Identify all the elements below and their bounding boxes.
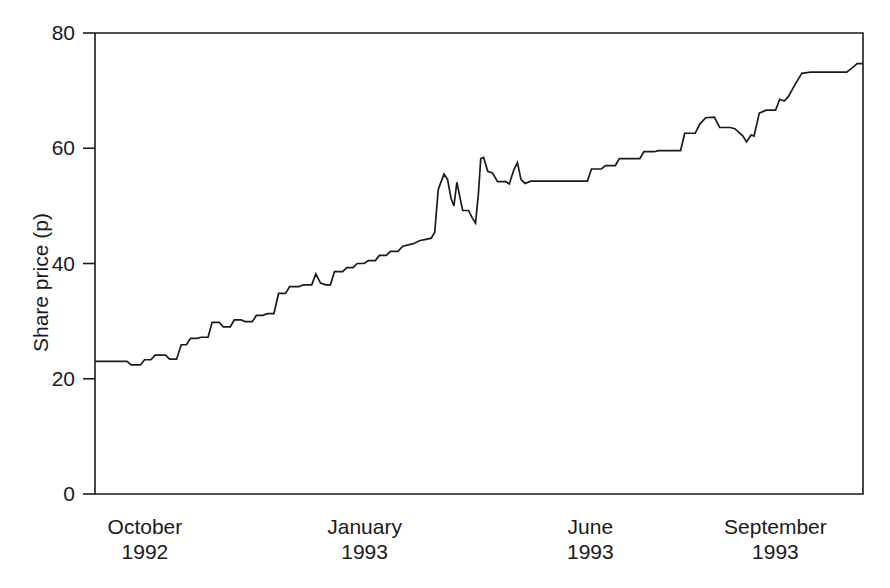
x-tick-month: October (108, 514, 183, 539)
plot-area (0, 0, 890, 588)
x-tick-label: October1992 (108, 514, 183, 564)
x-tick-year: 1992 (108, 539, 183, 564)
x-tick-label: June1993 (567, 514, 614, 564)
y-axis-ticks (83, 33, 95, 494)
share-price-line (95, 64, 863, 365)
y-tick-label: 0 (63, 483, 75, 504)
x-tick-month: September (724, 514, 827, 539)
x-tick-label: September1993 (724, 514, 827, 564)
x-tick-month: June (567, 514, 614, 539)
axis-lines (95, 33, 863, 494)
y-tick-label: 60 (52, 137, 75, 158)
x-tick-year: 1993 (327, 539, 402, 564)
y-tick-label: 80 (52, 22, 75, 43)
y-tick-label: 20 (52, 368, 75, 389)
share-price-chart-figure: . . . Share price (p) 020406080 October1… (0, 0, 890, 588)
plot-frame (95, 33, 863, 494)
y-tick-label: 40 (52, 253, 75, 274)
x-tick-label: January1993 (327, 514, 402, 564)
x-tick-year: 1993 (567, 539, 614, 564)
x-tick-month: January (327, 514, 402, 539)
x-tick-year: 1993 (724, 539, 827, 564)
